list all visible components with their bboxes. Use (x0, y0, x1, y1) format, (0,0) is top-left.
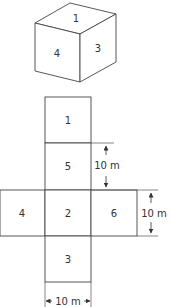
cube-right-label: 3 (95, 43, 101, 54)
net-label-2: 2 (65, 208, 71, 219)
dimension-label-face5: 10 m (94, 160, 120, 171)
cube-and-net-diagram: 1 4 3 1 5 4 2 6 3 10 m 10 m 10 (0, 0, 171, 307)
cube-top-label: 1 (73, 13, 79, 24)
cube-net: 1 5 4 2 6 3 (0, 97, 137, 282)
net-label-3: 3 (65, 254, 71, 265)
cube-left-label: 4 (54, 48, 60, 59)
net-label-6: 6 (111, 208, 117, 219)
dimension-label-face6: 10 m (141, 208, 167, 219)
net-label-4: 4 (19, 208, 25, 219)
dimension-face5-height: 10 m (91, 143, 158, 190)
net-label-1: 1 (65, 115, 71, 126)
dimension-column-width: 10 m (45, 282, 91, 307)
dimension-label-width: 10 m (55, 296, 81, 307)
cube: 1 4 3 (35, 3, 116, 82)
net-label-5: 5 (65, 161, 71, 172)
dimension-face6-height: 10 m (137, 193, 167, 236)
